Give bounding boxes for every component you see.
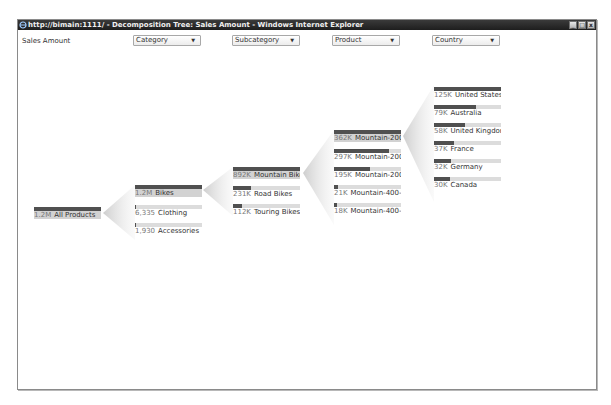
node-label: Bikes	[155, 189, 174, 197]
measure-label: Sales Amount	[22, 37, 70, 45]
node-label: Touring Bikes	[254, 208, 300, 216]
tree-node-australia[interactable]: 79KAustralia	[434, 105, 501, 116]
tree-node-canada[interactable]: 30KCanada	[434, 177, 501, 188]
tree-node-germany[interactable]: 32KGermany	[434, 159, 501, 170]
node-label: Road Bikes	[254, 190, 292, 198]
browser-window: http://bimain:1111/ - Decomposition Tree…	[17, 19, 597, 390]
node-label: Clothing	[158, 209, 187, 217]
tree-node-clothing[interactable]: 6,335Clothing	[135, 205, 202, 216]
subcategory-dropdown[interactable]: Subcategory ▼	[232, 35, 300, 46]
tree-node-product-4[interactable]: 21KMountain-400-W	[334, 185, 401, 196]
tree-node-product-1[interactable]: 362KMountain-200	[334, 130, 401, 142]
maximize-button[interactable]: □	[578, 21, 586, 29]
tree-node-united-kingdom[interactable]: 58KUnited Kingdom	[434, 123, 501, 134]
level-header: Sales Amount Category ▼ Subcategory ▼ Pr…	[18, 30, 596, 50]
country-dropdown[interactable]: Country ▼	[432, 35, 500, 46]
decomposition-tree: 1.2MAll Products 1.2MBikes 6,335Clothing…	[18, 50, 596, 389]
tree-node-root[interactable]: 1.2MAll Products	[34, 207, 101, 219]
node-label: Mountain-200	[355, 171, 401, 179]
tree-node-mountain-bikes[interactable]: 892KMountain Bikes	[233, 167, 300, 179]
node-label: Mountain-400-W	[351, 207, 402, 215]
node-label: United States	[455, 91, 501, 99]
tree-connectors	[18, 50, 596, 389]
dropdown-label: Subcategory	[235, 36, 279, 44]
window-title: http://bimain:1111/ - Decomposition Tree…	[28, 20, 363, 30]
minimize-button[interactable]: _	[569, 21, 577, 29]
category-dropdown[interactable]: Category ▼	[133, 35, 201, 46]
close-button[interactable]: x	[587, 21, 595, 29]
node-label: France	[451, 145, 474, 153]
chevron-down-icon: ▼	[490, 36, 494, 45]
title-bar: http://bimain:1111/ - Decomposition Tree…	[18, 20, 596, 30]
tree-node-product-5[interactable]: 18KMountain-400-W	[334, 203, 401, 214]
node-label: All Products	[54, 211, 95, 219]
tree-node-product-2[interactable]: 297KMountain-200	[334, 149, 401, 160]
chevron-down-icon: ▼	[191, 36, 195, 45]
node-label: Mountain-200	[355, 134, 401, 142]
node-label: Canada	[451, 181, 478, 189]
node-label: United Kingdom	[451, 127, 502, 135]
product-dropdown[interactable]: Product ▼	[332, 35, 400, 46]
ie-icon	[19, 21, 27, 29]
node-label: Mountain-400-W	[351, 189, 402, 197]
tree-node-bikes[interactable]: 1.2MBikes	[135, 185, 202, 197]
dropdown-label: Country	[435, 36, 463, 44]
tree-node-accessories[interactable]: 1,930Accessories	[135, 223, 202, 234]
tree-node-touring-bikes[interactable]: 112KTouring Bikes	[233, 204, 300, 215]
tree-node-france[interactable]: 37KFrance	[434, 141, 501, 152]
node-label: Germany	[451, 163, 483, 171]
chevron-down-icon: ▼	[390, 36, 394, 45]
node-label: Australia	[451, 109, 482, 117]
chevron-down-icon: ▼	[290, 36, 294, 45]
dropdown-label: Category	[136, 36, 168, 44]
node-label: Mountain-200	[355, 153, 401, 161]
tree-node-road-bikes[interactable]: 231KRoad Bikes	[233, 186, 300, 197]
node-label: Accessories	[158, 227, 199, 235]
node-label: Mountain Bikes	[254, 171, 300, 179]
tree-node-product-3[interactable]: 195KMountain-200	[334, 167, 401, 178]
dropdown-label: Product	[335, 36, 362, 44]
tree-node-united-states[interactable]: 125KUnited States	[434, 87, 501, 98]
